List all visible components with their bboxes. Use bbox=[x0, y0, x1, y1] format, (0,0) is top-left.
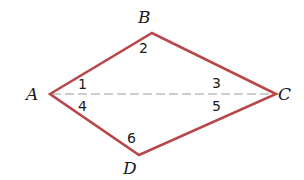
vertex-label-d: D bbox=[122, 158, 137, 178]
angle-label-2: 2 bbox=[139, 40, 148, 56]
angle-label-6: 6 bbox=[127, 130, 136, 146]
angle-label-3: 3 bbox=[212, 75, 221, 91]
angle-label-1: 1 bbox=[78, 76, 87, 92]
angle-label-5: 5 bbox=[212, 98, 221, 114]
kite-diagram: A B C D 1 2 3 4 5 6 bbox=[0, 0, 304, 180]
vertex-label-a: A bbox=[24, 84, 38, 104]
vertex-label-b: B bbox=[137, 7, 151, 27]
angle-label-4: 4 bbox=[78, 98, 87, 114]
vertex-label-c: C bbox=[278, 84, 291, 104]
